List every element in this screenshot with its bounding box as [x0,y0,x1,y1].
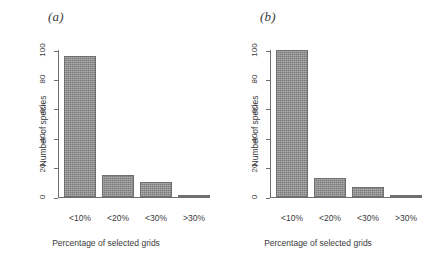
x-tick-label-b-3: >30% [386,213,425,223]
y-tick-label-b-40: 40 [251,129,259,147]
plot-area-a: 020406080100 [58,50,210,198]
panel-label-a: (a) [48,9,64,25]
y-tick-label-b-80: 80 [251,70,259,88]
y-tick-label-a-60: 60 [39,100,47,118]
x-axis-title-b: Percentage of selected grids [212,238,424,248]
figure-canvas: (a) Number of species 020406080100 <10%<… [0,0,425,262]
bar-b-<30%[interactable] [352,187,384,197]
y-tick-b-0 [266,198,270,199]
bar-a-<10%[interactable] [64,56,96,197]
x-axis-title-a: Percentage of selected grids [0,238,212,248]
y-tick-a-0 [54,198,58,199]
chart-panel-a: (a) Number of species 020406080100 <10%<… [0,0,212,262]
bar-a->30%[interactable] [178,195,210,197]
y-tick-label-a-80: 80 [39,70,47,88]
bar-series-a [58,50,210,197]
bar-b->30%[interactable] [390,195,422,197]
bar-series-b [270,50,422,197]
y-tick-label-a-100: 100 [39,41,47,59]
x-tick-label-b-1: <20% [310,213,350,223]
x-axis-line-a [58,197,210,198]
y-tick-label-b-20: 20 [251,159,259,177]
x-tick-label-a-1: <20% [98,213,138,223]
y-tick-label-a-20: 20 [39,159,47,177]
x-tick-label-a-3: >30% [174,213,214,223]
x-tick-label-b-2: <30% [348,213,388,223]
y-tick-label-a-40: 40 [39,129,47,147]
y-tick-label-b-60: 60 [251,100,259,118]
y-tick-label-b-100: 100 [251,41,259,59]
bar-a-<30%[interactable] [140,182,172,197]
bar-b-<20%[interactable] [314,178,346,197]
x-tick-label-a-2: <30% [136,213,176,223]
x-tick-label-a-0: <10% [60,213,100,223]
plot-area-b: 020406080100 [270,50,422,198]
bar-b-<10%[interactable] [276,50,308,197]
x-tick-label-b-0: <10% [272,213,312,223]
y-tick-label-a-0: 0 [39,188,47,206]
x-axis-line-b [270,197,422,198]
y-tick-label-b-0: 0 [251,188,259,206]
panel-label-b: (b) [260,9,276,25]
chart-panel-b: (b) Number of species 020406080100 <10%<… [212,0,424,262]
bar-a-<20%[interactable] [102,175,134,197]
